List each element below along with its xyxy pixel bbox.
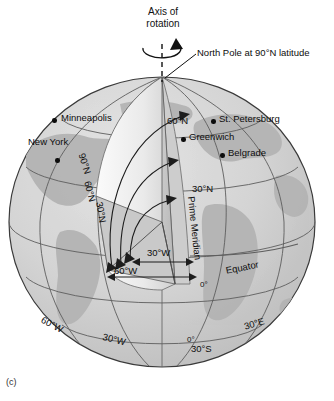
city-dot [211,119,216,124]
latitude-label-30s-bottom: 30°S [191,344,212,354]
longitude-label-0-meridian: 0° [200,281,208,289]
axis-of-rotation-label: Axis of rotation [128,6,198,29]
rotation-axis [143,38,183,82]
city-label-st-petersburg: St. Petersburg [219,114,280,124]
city-dot [55,158,60,163]
figure-caption: (c) [6,377,17,387]
axis-label-line1: Axis of [148,6,178,17]
city-dot [181,137,186,142]
city-dot [52,118,57,123]
city-label-greenwich: Greenwich [189,132,234,142]
north-pole-callout: North Pole at 90°N latitude [197,48,310,58]
latitude-label-30n-right: 30°N [192,184,213,194]
latitude-label-30n-arc: 30°N [95,201,108,224]
globe-figure: Axis of rotation North Pole at 90°N lati… [0,0,334,401]
longitude-label-60w-measure: 60°W [114,266,137,276]
city-dot [220,153,225,158]
city-label-belgrade: Belgrade [228,148,266,158]
city-label-new-york: New York [28,137,68,147]
latitude-label-60n-right: 60°N [167,116,188,126]
axis-label-line2: rotation [146,18,179,29]
city-label-minneapolis: Minneapolis [61,113,112,123]
longitude-label-30w-measure: 30°W [147,248,170,258]
globe-diagram [0,0,334,401]
